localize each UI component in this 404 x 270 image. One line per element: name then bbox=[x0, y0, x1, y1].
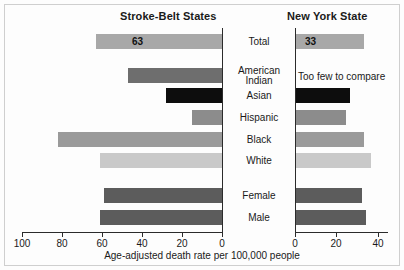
right-axis-tick-40 bbox=[378, 233, 379, 237]
bar-right-asian bbox=[296, 88, 350, 103]
right-axis-tick-label-20: 20 bbox=[321, 238, 351, 249]
bar-left-black bbox=[58, 132, 222, 147]
left-axis-tick-label-80: 80 bbox=[47, 238, 77, 249]
bar-left-hispanic bbox=[192, 110, 222, 125]
bar-left-total bbox=[96, 34, 222, 49]
bar-right-white bbox=[296, 153, 371, 168]
left-axis-tick-label-0: 0 bbox=[207, 238, 237, 249]
chart-row: Hispanic bbox=[0, 108, 404, 128]
category-label-female: Female bbox=[223, 186, 295, 206]
chart-row: Asian bbox=[0, 86, 404, 106]
bar-right-male bbox=[296, 210, 366, 225]
category-label-asian: Asian bbox=[223, 86, 295, 106]
bar-left-asian bbox=[166, 88, 222, 103]
right-axis-tick-label-0: 0 bbox=[280, 238, 310, 249]
category-label-male: Male bbox=[223, 208, 295, 228]
left-axis-tick-label-100: 100 bbox=[7, 238, 37, 249]
chart-row: White bbox=[0, 151, 404, 171]
left-panel-baseline bbox=[22, 232, 223, 233]
x-axis-label: Age-adjusted death rate per 100,000 peop… bbox=[0, 250, 404, 261]
chart-row: Too few to compareAmericanIndian bbox=[0, 66, 404, 86]
category-label-american-indian: AmericanIndian bbox=[223, 66, 295, 86]
left-axis-tick-100 bbox=[22, 233, 23, 237]
category-label-black: Black bbox=[223, 130, 295, 150]
right-axis-tick-20 bbox=[336, 233, 337, 237]
category-label-white: White bbox=[223, 151, 295, 171]
bar-left-male bbox=[100, 210, 222, 225]
left-axis-tick-0 bbox=[222, 233, 223, 237]
chart-row: Male bbox=[0, 208, 404, 228]
left-axis-tick-20 bbox=[182, 233, 183, 237]
bar-right-female bbox=[296, 188, 362, 203]
bar-right-black bbox=[296, 132, 364, 147]
category-label-hispanic: Hispanic bbox=[223, 108, 295, 128]
bar-value-label-right: 33 bbox=[305, 34, 316, 49]
chart-row: Female bbox=[0, 186, 404, 206]
annotation-too-few-to-compare: Too few to compare bbox=[298, 66, 385, 86]
chart-row: 6333Total bbox=[0, 32, 404, 52]
bar-right-hispanic bbox=[296, 110, 346, 125]
bar-left-female bbox=[104, 188, 222, 203]
left-axis-tick-40 bbox=[142, 233, 143, 237]
left-axis-tick-80 bbox=[62, 233, 63, 237]
right-axis-tick-0 bbox=[295, 233, 296, 237]
chart-row: Black bbox=[0, 130, 404, 150]
right-panel-baseline bbox=[295, 232, 388, 233]
bar-left-american-indian bbox=[128, 68, 222, 83]
panel-title-stroke-belt-states: Stroke-Belt States bbox=[120, 10, 217, 22]
left-axis-tick-60 bbox=[102, 233, 103, 237]
bar-left-white bbox=[100, 153, 222, 168]
right-axis-tick-label-40: 40 bbox=[363, 238, 393, 249]
category-label-total: Total bbox=[223, 32, 295, 52]
bar-value-label-left: 63 bbox=[132, 34, 143, 49]
left-axis-tick-label-40: 40 bbox=[127, 238, 157, 249]
left-axis-tick-label-20: 20 bbox=[167, 238, 197, 249]
chart-figure: Stroke-Belt States New York State 6333To… bbox=[0, 0, 404, 270]
left-axis-tick-label-60: 60 bbox=[87, 238, 117, 249]
panel-title-new-york-state: New York State bbox=[287, 10, 367, 22]
